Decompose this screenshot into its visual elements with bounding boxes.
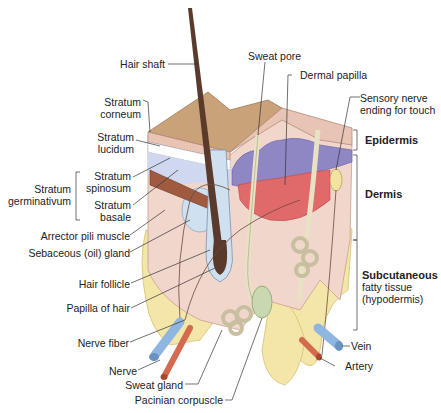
label-stratum-germinativum-1: Stratum [34,183,71,195]
label-stratum-corneum: Stratumcorneum [100,96,141,120]
label-sweat-gland: Sweat gland [125,379,183,391]
label-stratum-basale-1: Stratum [94,199,131,211]
label-nerve-fiber: Nerve fiber [78,337,129,349]
label-sensory-nerve: Sensory nerveending for touch [360,92,435,116]
label-subcutaneous: Subcutaneousfatty tissue(hypodermis) [362,269,438,305]
label-arrector-pili: Arrector pili muscle [41,230,130,242]
label-pacinian: Pacinian corpuscle [135,394,223,406]
label-epidermis: Epidermis [365,134,418,146]
label-papilla-hair: Papilla of hair [66,302,130,314]
label-stratum-basale-2: basale [100,211,131,223]
label-artery: Artery [345,360,373,372]
label-stratum-germinativum: Stratumgerminativum [8,183,71,207]
label-stratum-basale: Stratumbasale [94,199,131,223]
label-sebaceous: Sebaceous (oil) gland [28,247,130,259]
label-dermal-papilla: Dermal papilla [300,69,367,81]
label-stratum-spinosum-1: Stratum [94,170,131,182]
label-sensory-1: Sensory nerve [360,92,428,104]
label-hair-shaft: Hair shaft [120,58,165,70]
label-sweat-pore: Sweat pore [248,50,301,62]
pacinian-corpuscle [252,286,272,318]
label-stratum-lucidum-2: lucidum [98,143,134,155]
label-stratum-lucidum: Stratumlucidum [97,131,134,155]
label-stratum-spinosum: Stratumspinosum [86,170,131,194]
label-sensory-2: ending for touch [360,104,435,116]
label-stratum-corneum-1: Stratum [104,96,141,108]
label-nerve: Nerve [109,365,137,377]
label-vein: Vein [351,340,371,352]
label-subcutaneous-3: (hypodermis) [362,293,423,305]
label-dermis: Dermis [365,188,402,200]
label-hair-follicle: Hair follicle [79,278,130,290]
label-stratum-lucidum-1: Stratum [97,131,134,143]
label-stratum-germinativum-2: germinativum [8,195,71,207]
label-stratum-spinosum-2: spinosum [86,182,131,194]
label-stratum-corneum-2: corneum [100,108,141,120]
touch-receptor [330,169,342,191]
label-subcutaneous-1: Subcutaneous [362,269,438,281]
label-subcutaneous-2: fatty tissue [362,281,412,293]
